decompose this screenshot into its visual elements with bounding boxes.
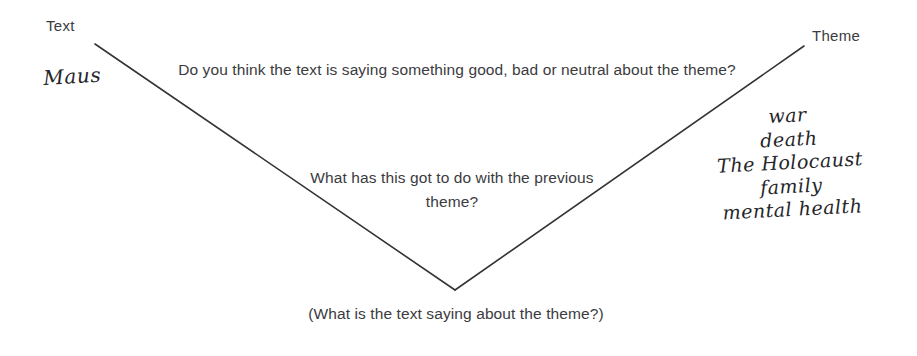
axis-label-theme: Theme	[812, 27, 860, 44]
question-previous-theme: What has this got to do with the previou…	[292, 166, 612, 214]
theme-list: war death The Holocaust family mental he…	[687, 99, 893, 227]
source-text-title: Maus	[43, 63, 102, 90]
axis-label-text: Text	[46, 17, 75, 34]
diagram-canvas: Text Theme Maus Do you think the text is…	[0, 0, 917, 356]
question-sentiment: Do you think the text is saying somethin…	[168, 58, 746, 82]
diagram-caption: (What is the text saying about the theme…	[256, 303, 656, 325]
